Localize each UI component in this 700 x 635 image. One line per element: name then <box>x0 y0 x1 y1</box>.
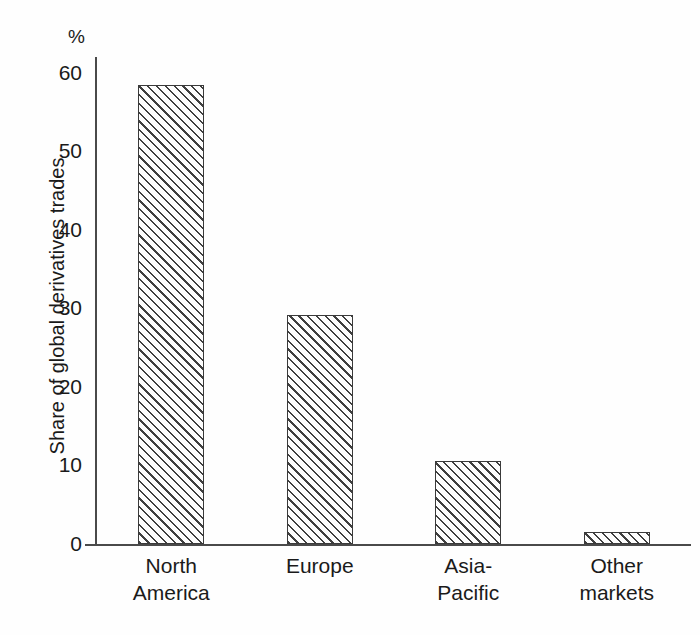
x-tick-label-line: Other <box>543 552 692 579</box>
x-axis-line <box>95 544 691 546</box>
y-tick-label: 50 <box>36 140 82 161</box>
x-tick-label: NorthAmerica <box>97 552 246 606</box>
bar <box>435 461 501 544</box>
x-tick-label: Europe <box>246 552 395 579</box>
bar <box>584 532 650 544</box>
y-tick-label: 30 <box>36 297 82 318</box>
y-tick-label: 20 <box>36 376 82 397</box>
plot-area <box>97 57 691 544</box>
y-axis-tick-labels: 0102030405060 <box>36 0 82 635</box>
bar-chart-figure: % Share of global derivatives trades 010… <box>0 0 700 635</box>
bar <box>138 85 204 545</box>
x-tick-label-line: North <box>97 552 246 579</box>
y-tick-label: 0 <box>36 533 82 554</box>
x-axis-tick-labels: NorthAmericaEuropeAsia-PacificOthermarke… <box>97 552 691 632</box>
x-tick-label: Asia-Pacific <box>394 552 543 606</box>
x-tick-label-line: America <box>97 579 246 606</box>
y-tick-label: 10 <box>36 454 82 475</box>
x-tick-label-line: Europe <box>246 552 395 579</box>
x-tick-label-line: Asia- <box>394 552 543 579</box>
y-tick-label: 40 <box>36 219 82 240</box>
x-tick-label-line: markets <box>543 579 692 606</box>
x-tick-label: Othermarkets <box>543 552 692 606</box>
bar <box>287 315 353 544</box>
y-tick-label: 60 <box>36 62 82 83</box>
x-tick-label-line: Pacific <box>394 579 543 606</box>
